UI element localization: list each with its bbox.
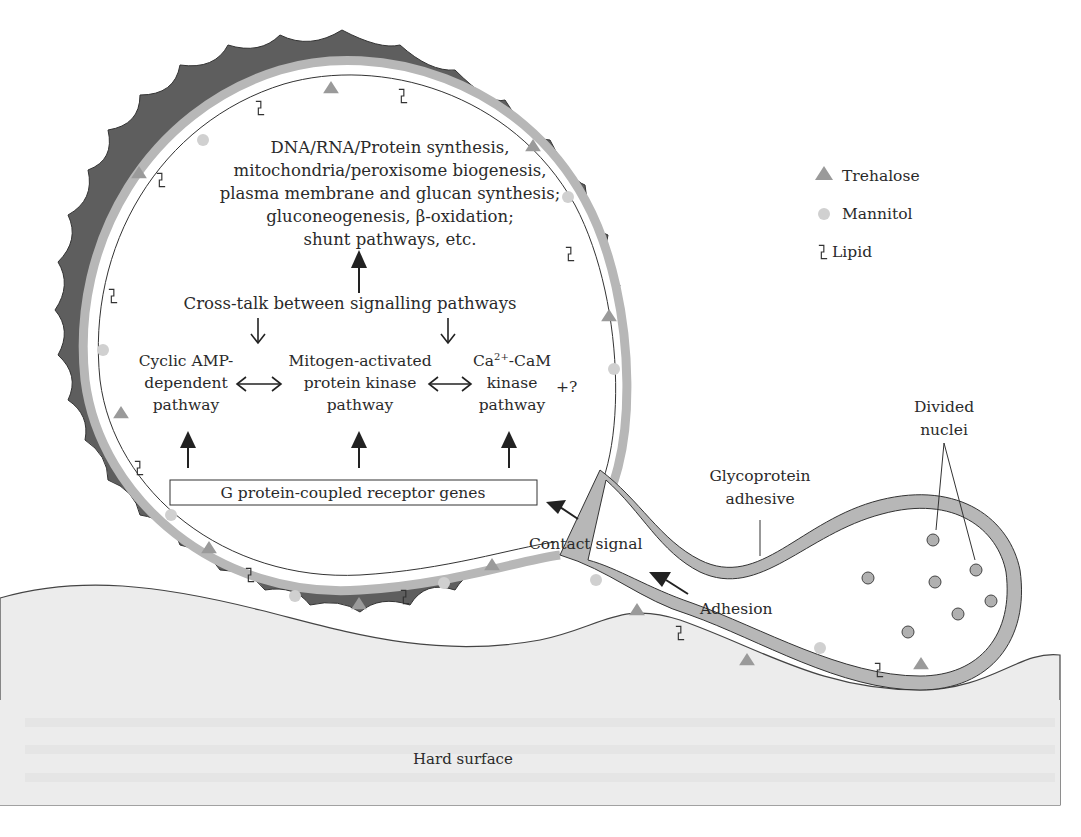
legend-item-trehalose: Trehalose [815,166,920,185]
pathway-mapk: Mitogen-activated [288,352,431,370]
glycoprotein-line: adhesive [725,490,794,508]
crosstalk-label: Cross-talk between signalling pathways [184,294,517,313]
hard-surface-label: Hard surface [413,750,513,768]
adhesion-label: Adhesion [699,600,773,618]
synthesis-line: shunt pathways, etc. [303,230,476,249]
legend-label: Trehalose [842,167,920,185]
synthesis-line: DNA/RNA/Protein synthesis, [271,138,510,157]
lipid-icon [819,245,827,258]
legend-label: Mannitol [842,205,913,223]
triangle-icon [815,166,833,180]
pathway-labels: Cyclic AMP- dependent pathway Mitogen-ac… [139,351,552,414]
legend: Trehalose Mannitol Lipid [815,166,920,261]
pathway-camp-line: dependent [144,374,228,392]
glycoprotein-label: Glycoprotein adhesive [709,467,810,508]
nuclei-line: nuclei [920,421,968,439]
pathway-mapk-line: pathway [327,396,394,414]
circle-icon [818,208,830,220]
receptor-box: G protein-coupled receptor genes [170,480,537,505]
pathway-ca-cam: Ca2+-CaM [473,351,551,370]
receptor-label: G protein-coupled receptor genes [221,484,486,502]
nuclei-label: Divided nuclei [914,398,974,439]
pathway-ca-cam-line: kinase [487,374,538,392]
contact-signal-label: Contact signal [529,535,643,553]
glycoprotein-line: Glycoprotein [709,467,810,485]
legend-item-lipid: Lipid [819,243,872,261]
synthesis-line: gluconeogenesis, β-oxidation; [266,207,513,226]
synthesis-line: mitochondria/peroxisome biogenesis, [234,161,547,180]
pathway-camp-line: pathway [153,396,220,414]
legend-label: Lipid [832,243,872,261]
nuclei-line: Divided [914,398,974,416]
synthesis-line: plasma membrane and glucan synthesis; [220,184,561,203]
unknown-pathway: +? [556,378,577,396]
pathway-camp: Cyclic AMP- [139,352,234,370]
pathway-ca-cam-line: pathway [479,396,546,414]
legend-item-mannitol: Mannitol [818,205,913,223]
appressorium-diagram: DNA/RNA/Protein synthesis, mitochondria/… [0,0,1081,837]
pathway-mapk-line: protein kinase [304,374,417,392]
